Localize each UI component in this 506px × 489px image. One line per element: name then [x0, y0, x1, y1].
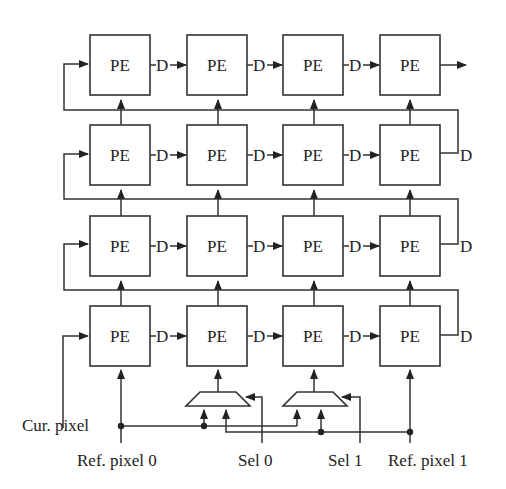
sel-1-label: Sel 1	[328, 451, 362, 470]
pe-array-diagram: PE PE PE PE PE PE PE PE PE PE PE PE PE P…	[0, 0, 506, 489]
svg-text:PE: PE	[207, 237, 227, 256]
svg-text:PE: PE	[303, 56, 323, 75]
svg-text:D: D	[253, 327, 265, 346]
svg-text:PE: PE	[400, 327, 420, 346]
ref-pixel-0-label: Ref. pixel 0	[77, 451, 157, 470]
svg-text:D: D	[460, 327, 472, 346]
svg-text:D: D	[349, 56, 361, 75]
svg-text:PE: PE	[110, 56, 130, 75]
input-labels: Cur. pixel Ref. pixel 0 Sel 0 Sel 1 Ref.…	[22, 416, 468, 470]
cur-pixel-label: Cur. pixel	[22, 416, 89, 435]
svg-text:D: D	[156, 56, 168, 75]
svg-text:D: D	[460, 237, 472, 256]
multiplexer-1	[283, 392, 347, 406]
sel-0-label: Sel 0	[238, 451, 272, 470]
feedback-loops	[64, 64, 458, 335]
svg-text:PE: PE	[110, 146, 130, 165]
svg-text:PE: PE	[400, 146, 420, 165]
svg-text:PE: PE	[400, 237, 420, 256]
junction-dots	[118, 423, 413, 435]
svg-text:PE: PE	[400, 56, 420, 75]
svg-text:PE: PE	[207, 146, 227, 165]
svg-text:D: D	[156, 237, 168, 256]
svg-text:PE: PE	[207, 56, 227, 75]
pe-labels: PE PE PE PE PE PE PE PE PE PE PE PE PE P…	[110, 56, 420, 346]
svg-text:D: D	[253, 237, 265, 256]
svg-text:PE: PE	[110, 327, 130, 346]
svg-text:PE: PE	[110, 237, 130, 256]
multiplexer-0	[186, 392, 250, 406]
svg-text:PE: PE	[303, 146, 323, 165]
svg-text:PE: PE	[303, 237, 323, 256]
svg-text:D: D	[156, 146, 168, 165]
svg-text:D: D	[349, 146, 361, 165]
svg-text:D: D	[349, 327, 361, 346]
svg-text:D: D	[460, 146, 472, 165]
svg-text:D: D	[253, 56, 265, 75]
ref-pixel-1-label: Ref. pixel 1	[388, 451, 468, 470]
svg-text:D: D	[349, 237, 361, 256]
svg-text:D: D	[253, 146, 265, 165]
svg-text:D: D	[156, 327, 168, 346]
svg-text:PE: PE	[303, 327, 323, 346]
svg-text:PE: PE	[207, 327, 227, 346]
delay-links: D D D D D D D D D D D D D	[150, 56, 472, 346]
vertical-links	[121, 100, 410, 307]
